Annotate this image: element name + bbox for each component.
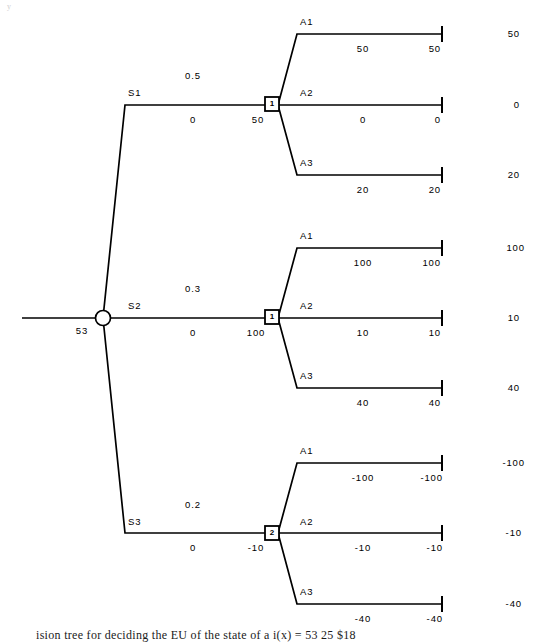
node-value-label-s2: 100 — [247, 328, 266, 338]
decision-node-number-s2: 1 — [270, 313, 274, 321]
action-label-s1-a3: A3 — [300, 158, 313, 168]
action-label-s3-a2: A2 — [300, 517, 313, 527]
state-label-s3: S3 — [128, 517, 141, 527]
end-value-label-s2-a2: 10 — [429, 328, 441, 338]
decision-tree-figure: y — [0, 0, 538, 643]
outcome-label-s2-a2: 10 — [508, 313, 520, 323]
cost-label-s1: 0 — [190, 115, 196, 125]
payoff-label-s2-a1: 100 — [354, 258, 373, 268]
outcome-label-s2-a3: 40 — [508, 383, 520, 393]
root-chance-node-circle — [96, 311, 111, 326]
figure-caption: ision tree for deciding the EU of the st… — [36, 628, 356, 643]
end-value-label-s1-a1: 50 — [429, 44, 441, 54]
cost-label-s3: 0 — [190, 543, 196, 553]
action-label-s2-a3: A3 — [300, 371, 313, 381]
root-value-label: 53 — [76, 326, 88, 336]
probability-label-s2: 0.3 — [185, 284, 201, 294]
state-label-s1: S1 — [128, 88, 141, 98]
end-value-label-s2-a1: 100 — [422, 258, 441, 268]
payoff-label-s1-a1: 50 — [357, 44, 369, 54]
action-label-s1-a1: A1 — [300, 17, 313, 27]
payoff-label-s2-a2: 10 — [357, 328, 369, 338]
action-label-s2-a1: A1 — [300, 231, 313, 241]
node-value-label-s1: 50 — [252, 115, 264, 125]
state-label-s2: S2 — [128, 301, 141, 311]
cost-label-s2: 0 — [190, 328, 196, 338]
end-value-label-s2-a3: 40 — [429, 398, 441, 408]
outcome-label-s3-a2: -10 — [506, 528, 522, 538]
end-value-label-s3-a3: -40 — [427, 614, 443, 624]
node-value-label-s3: -10 — [248, 543, 264, 553]
outcome-label-s3-a1: -100 — [502, 458, 525, 468]
end-value-label-s3-a1: -100 — [420, 473, 443, 483]
end-value-label-s1-a3: 20 — [429, 185, 441, 195]
payoff-label-s1-a3: 20 — [357, 185, 369, 195]
probability-label-s3: 0.2 — [185, 500, 201, 510]
payoff-label-s1-a2: 0 — [360, 115, 366, 125]
end-value-label-s3-a2: -10 — [427, 543, 443, 553]
action-label-s3-a3: A3 — [300, 587, 313, 597]
decision-node-number-s1: 1 — [270, 100, 274, 108]
action-label-s1-a2: A2 — [300, 88, 313, 98]
probability-label-s1: 0.5 — [185, 71, 201, 81]
end-value-label-s1-a2: 0 — [435, 115, 441, 125]
outcome-label-s1-a2: 0 — [514, 100, 520, 110]
payoff-label-s3-a3: -40 — [355, 614, 371, 624]
payoff-label-s3-a2: -10 — [355, 543, 371, 553]
branch-s3 — [103, 318, 265, 533]
decision-node-number-s3: 2 — [270, 529, 274, 537]
action-label-s3-a1: A1 — [300, 446, 313, 456]
outcome-label-s2-a1: 100 — [506, 243, 525, 253]
payoff-label-s2-a3: 40 — [357, 398, 369, 408]
payoff-label-s3-a1: -100 — [352, 473, 375, 483]
tree-lines — [0, 0, 538, 643]
outcome-label-s1-a3: 20 — [508, 170, 520, 180]
action-label-s2-a2: A2 — [300, 301, 313, 311]
outcome-label-s1-a1: 50 — [508, 29, 520, 39]
outcome-label-s3-a3: -40 — [506, 599, 522, 609]
